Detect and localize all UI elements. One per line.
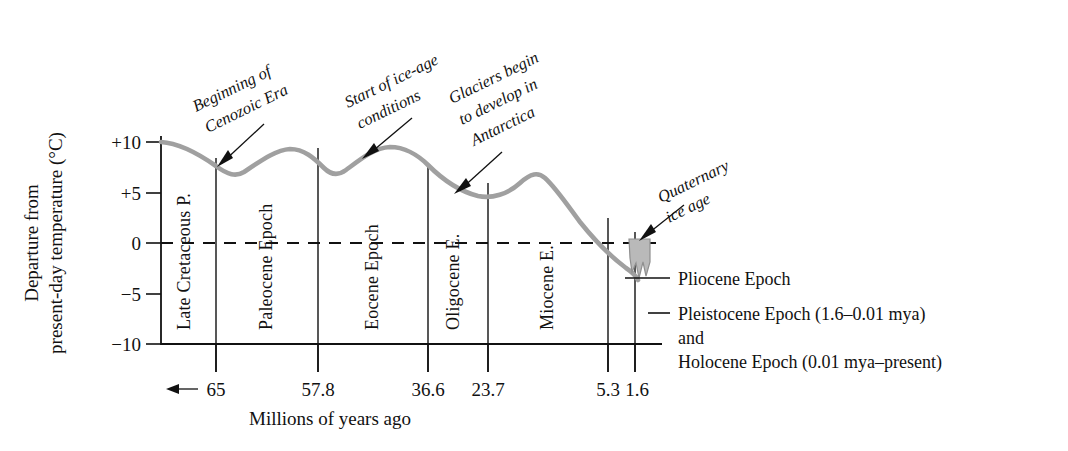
annotation-glaciers-antarctica: Glaciers begin to develop in Antarctica [445, 48, 541, 194]
epoch-label-paleocene: Paleocene Epoch [256, 204, 276, 330]
y-tick-label-zero: 0 [132, 233, 142, 254]
legend-label-holocene: Holocene Epoch (0.01 mya–present) [678, 352, 942, 373]
x-tick-label-57-8: 57.8 [301, 379, 334, 400]
epoch-label-miocene: Miocene E. [537, 245, 557, 330]
x-axis-title: Millions of years ago [249, 408, 411, 429]
annotation-quaternary-ice-age: Quaternary ice age [639, 155, 733, 241]
figure-root: +10 +5 0 −5 −10 Departure from present-d… [0, 0, 1068, 451]
epoch-label-eocene: Eocene Epoch [362, 224, 382, 330]
older-direction-arrow-icon [166, 384, 198, 394]
x-tick-label-65: 65 [207, 379, 226, 400]
legend-label-pliocene: Pliocene Epoch [678, 269, 790, 289]
annotation-start-ice-age: Start of ice-age conditions [341, 50, 441, 159]
y-axis-title-line2: present-day temperature (°C) [45, 132, 67, 354]
temperature-curve [161, 142, 638, 280]
epoch-label-late-cretaceous: Late Cretaceous P. [174, 193, 194, 330]
y-tick-label-plus5: +5 [121, 183, 141, 204]
quaternary-ice-age-blob [629, 239, 650, 278]
legend-label-and: and [678, 328, 704, 348]
x-tick-label-1-6: 1.6 [625, 379, 649, 400]
y-tick-label-minus10: −10 [111, 334, 141, 355]
epoch-label-oligocene: Oligocene E. [443, 234, 463, 330]
x-tick-label-23-7: 23.7 [471, 379, 504, 400]
x-tick-label-5-3: 5.3 [596, 379, 620, 400]
legend-label-pleistocene: Pleistocene Epoch (1.6–0.01 mya) [678, 304, 925, 325]
temperature-history-chart: +10 +5 0 −5 −10 Departure from present-d… [0, 0, 1068, 451]
y-tick-label-plus10: +10 [111, 132, 141, 153]
x-tick-label-36-6: 36.6 [411, 379, 444, 400]
y-axis-title-line1: Departure from [21, 184, 42, 302]
y-tick-label-minus5: −5 [121, 284, 141, 305]
